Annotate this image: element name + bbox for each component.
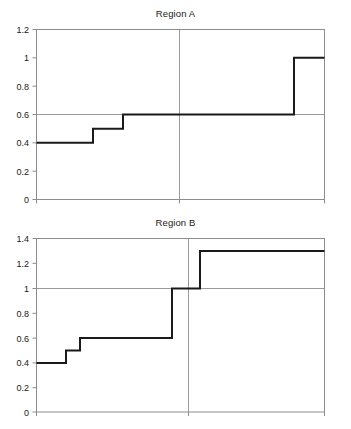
chart-b-plot-frame [37, 239, 325, 413]
chart-a-ytick-label-3: 0.6 [16, 110, 29, 120]
chart-b-ytick-label-2: 0.4 [16, 358, 29, 368]
chart-a-plot: 1.2 1 0.8 0.6 0.4 0.2 0 [0, 0, 351, 213]
chart-a-ytick-label-1: 0.2 [16, 167, 29, 177]
chart-region-a: Region A 1.2 1 0.8 0.6 0.4 [0, 0, 351, 213]
chart-a-ytick-label-2: 0.4 [16, 138, 29, 148]
chart-region-b: Region B 1.4 1.2 1 0.8 [0, 213, 351, 429]
chart-b-ytick-label-1: 0.2 [16, 383, 29, 393]
chart-a-ytick-label-0: 0 [24, 195, 29, 205]
chart-b-ytick-label-3: 0.6 [16, 334, 29, 344]
chart-b-ytick-label-4: 0.8 [16, 309, 29, 319]
chart-b-ytick-label-7: 1.4 [16, 234, 29, 244]
chart-a-ytick-label-5: 1 [24, 53, 29, 63]
chart-a-ytick-label-4: 0.8 [16, 82, 29, 92]
chart-b-plot: 1.4 1.2 1 0.8 0.6 0.4 0.2 0 [0, 213, 351, 429]
figure-sheet: Region A 1.2 1 0.8 0.6 0.4 [0, 0, 351, 429]
chart-b-ytick-label-5: 1 [24, 284, 29, 294]
chart-a-ytick-label-6: 1.2 [16, 25, 29, 35]
chart-b-ytick-label-6: 1.2 [16, 259, 29, 269]
chart-b-ytick-label-0: 0 [24, 408, 29, 418]
